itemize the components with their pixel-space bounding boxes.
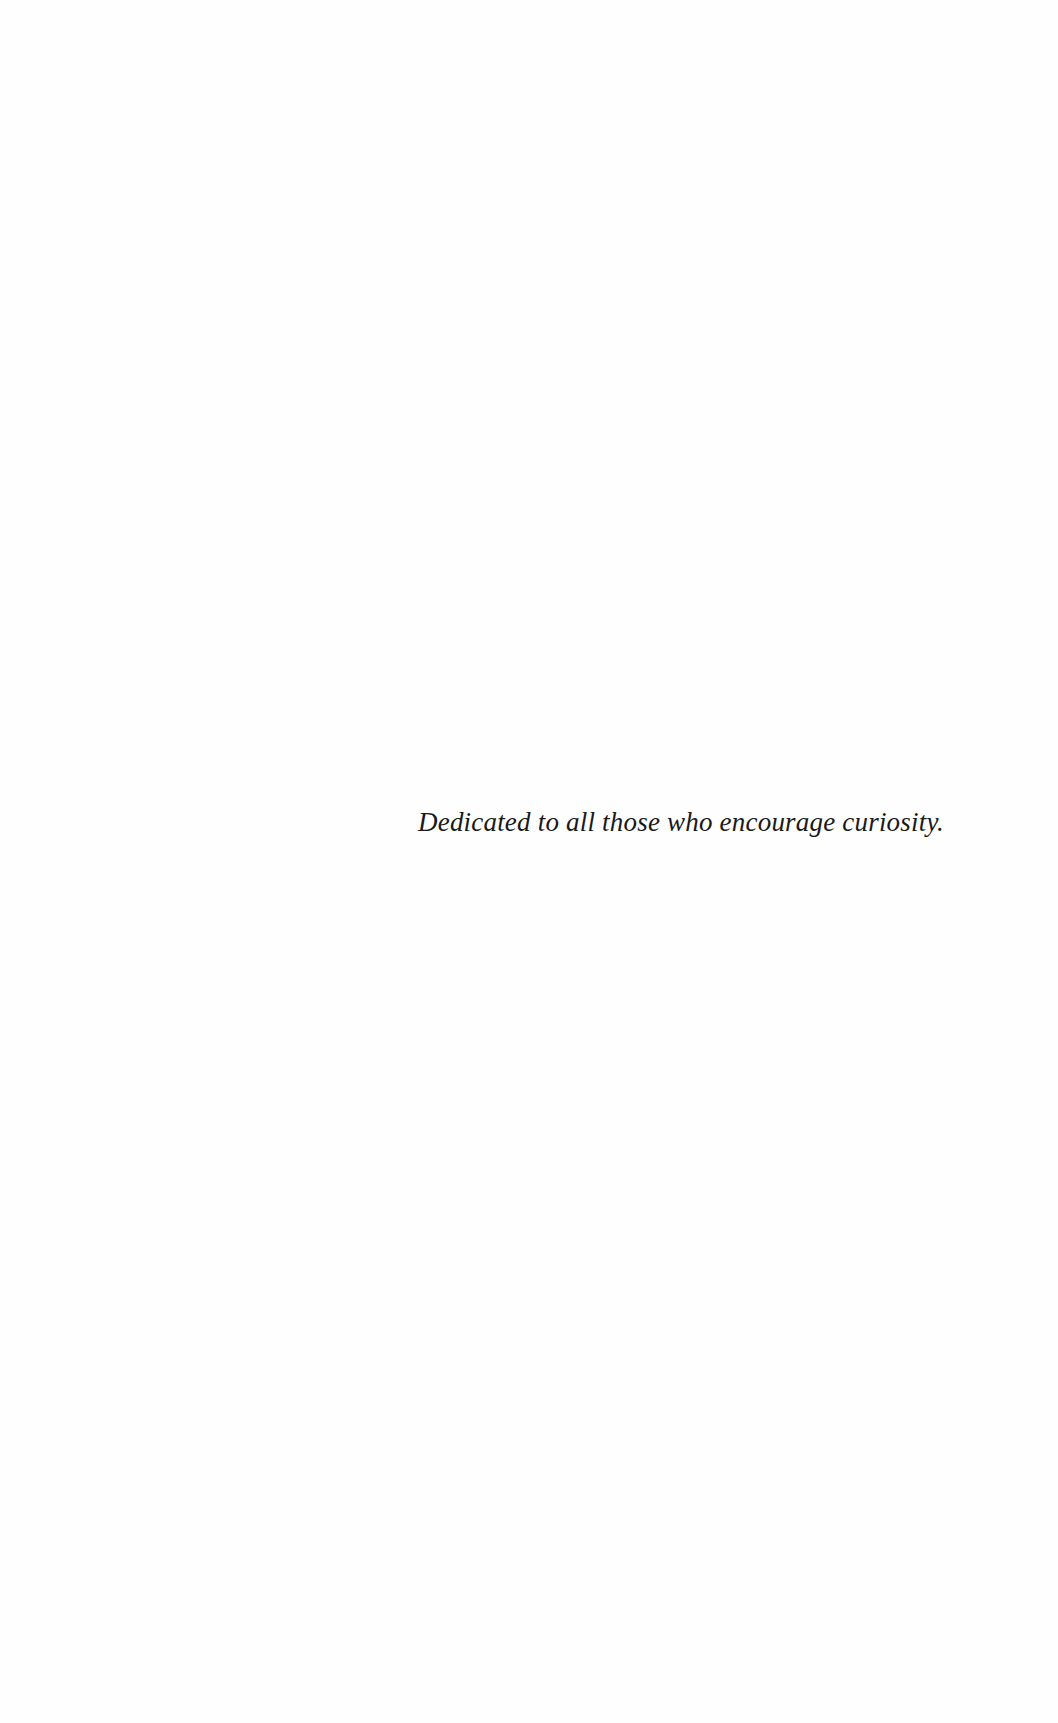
- book-page: Dedicated to all those who encourage cur…: [0, 0, 1058, 1723]
- dedication-text: Dedicated to all those who encourage cur…: [418, 805, 938, 839]
